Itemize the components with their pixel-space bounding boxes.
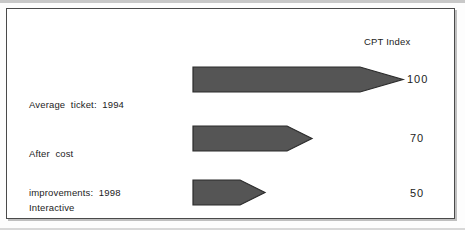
bar-arrow-1 — [192, 125, 317, 153]
figure-canvas: CPT Index Average ticket: 1994 100 After… — [0, 0, 465, 230]
bar-arrow-0-shape — [192, 66, 407, 94]
bar-label-2: Interactive (e.g., AXI Travel): 2001 — [29, 175, 138, 230]
bar-arrow-1-shape — [192, 125, 317, 153]
bar-arrow-2 — [192, 179, 270, 207]
bar-value-0: 100 — [407, 73, 428, 85]
scan-edge-top — [0, 0, 465, 3]
bar-arrow-0 — [192, 66, 407, 94]
frame-shadow-right — [455, 10, 457, 221]
bar-label-2-line-0: Interactive — [29, 201, 138, 214]
bar-value-2: 50 — [410, 187, 424, 199]
bar-arrow-2-shape — [192, 179, 270, 207]
value-axis-label: CPT Index — [364, 36, 411, 47]
bar-label-0-line-0: Average ticket: 1994 — [29, 98, 124, 111]
chart-frame: CPT Index Average ticket: 1994 100 After… — [6, 8, 455, 219]
bar-value-1: 70 — [410, 132, 424, 144]
bar-label-1-line-0: After cost — [29, 147, 121, 160]
